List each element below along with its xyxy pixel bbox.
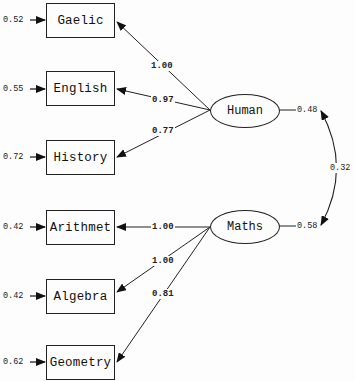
error-variance-algebra: 0.42 xyxy=(3,291,23,301)
loading-arithmet: 1.00 xyxy=(151,222,175,232)
observed-box-english: English xyxy=(46,71,115,106)
observed-label: Algebra xyxy=(54,290,108,304)
observed-box-history: History xyxy=(46,140,115,175)
error-variance-arithmet: 0.42 xyxy=(3,222,23,232)
observed-label: Gaelic xyxy=(57,14,103,28)
error-variance-english: 0.55 xyxy=(3,84,23,94)
observed-label: Geometry xyxy=(50,356,112,370)
observed-box-geometry: Geometry xyxy=(46,345,115,380)
observed-box-algebra: Algebra xyxy=(46,279,115,314)
observed-label: Arithmet xyxy=(50,221,112,235)
observed-box-arithmet: Arithmet xyxy=(46,210,115,245)
observed-box-gaelic: Gaelic xyxy=(46,3,115,38)
latent-maths: Maths xyxy=(210,210,280,244)
loading-history: 0.77 xyxy=(151,126,175,136)
error-variance-history: 0.72 xyxy=(3,152,23,162)
loading-geometry: 0.81 xyxy=(151,289,175,299)
error-variance-geometry: 0.62 xyxy=(3,357,23,367)
variance-maths: 0.58 xyxy=(297,221,317,231)
path-diagram: 0.52 0.55 0.72 0.42 0.42 0.62 Gaelic Eng… xyxy=(0,0,355,381)
loading-arrows xyxy=(117,22,210,362)
observed-label: English xyxy=(54,82,108,96)
latent-label: Maths xyxy=(227,220,263,234)
latent-human: Human xyxy=(210,94,280,128)
observed-label: History xyxy=(54,151,108,165)
loading-gaelic: 1.00 xyxy=(150,61,174,71)
covariance-human-maths: 0.32 xyxy=(329,163,351,173)
latent-label: Human xyxy=(227,104,263,118)
diagram-arrows xyxy=(0,0,355,381)
error-variance-gaelic: 0.52 xyxy=(3,15,23,25)
loading-english: 0.97 xyxy=(151,95,175,105)
variance-human: 0.48 xyxy=(297,105,317,115)
error-arrows xyxy=(30,20,45,362)
loading-algebra: 1.00 xyxy=(151,256,175,266)
